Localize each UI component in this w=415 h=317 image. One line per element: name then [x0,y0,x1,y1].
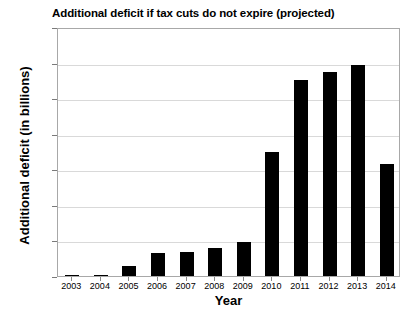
x-axis-title: Year [57,293,400,308]
bar-2011 [294,80,308,276]
plot-area [57,28,400,277]
gridline [58,207,399,208]
gridline [58,242,399,243]
y-tick-mark [52,99,57,100]
y-tick-mark [52,135,57,136]
gridline [58,100,399,101]
bar-2005 [122,266,136,276]
y-tick-mark [52,64,57,65]
bar-2004 [94,275,108,276]
bar-2006 [151,253,165,276]
bar-2009 [237,242,251,276]
bar-2010 [265,152,279,277]
y-tick-mark [52,206,57,207]
y-axis-title: Additional deficit (in billions) [17,40,32,272]
y-tick-mark [52,170,57,171]
bar-2013 [351,65,365,276]
bar-2008 [208,248,222,276]
bar-2014 [380,164,394,276]
gridline [58,65,399,66]
y-tick-mark [52,241,57,242]
chart-title: Additional deficit if tax cuts do not ex… [52,7,412,19]
bar-2007 [180,252,194,276]
gridline [58,171,399,172]
bar-2003 [65,275,79,276]
gridline [58,136,399,137]
bar-2012 [323,72,337,276]
x-tick-label: 2014 [366,281,406,291]
y-tick-mark [52,277,57,278]
bar-chart-figure: Additional deficit if tax cuts do not ex… [0,0,415,317]
y-tick-mark [52,28,57,29]
